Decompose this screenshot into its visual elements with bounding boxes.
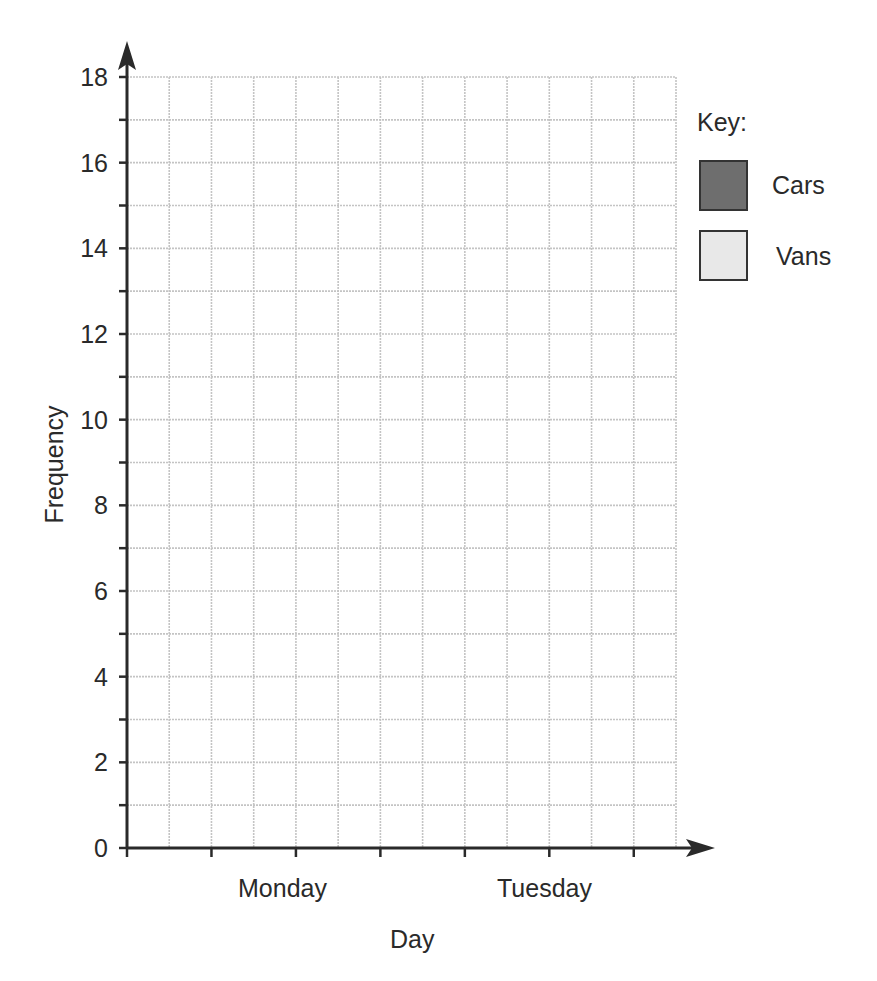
y-tick-label: 2 [48,748,108,777]
y-tick-label: 0 [48,834,108,863]
y-tick-label: 18 [48,63,108,92]
legend-label-cars: Cars [772,171,825,200]
x-axis-title: Day [390,925,434,954]
y-axis-title: Frequency [40,405,69,525]
grid-lines [127,77,676,848]
x-category-label-monday: Monday [238,874,327,903]
legend-label-vans: Vans [776,242,831,271]
legend-swatch-cars [699,160,748,211]
x-category-label-tuesday: Tuesday [497,874,592,903]
y-tick-label: 12 [48,320,108,349]
y-tick-label: 16 [48,149,108,178]
y-tick-label: 14 [48,234,108,263]
axis-ticks [119,77,634,857]
y-tick-label: 4 [48,663,108,692]
y-tick-label: 6 [48,577,108,606]
legend-swatch-vans [699,230,748,281]
chart-plot-area [0,0,877,981]
legend-title: Key: [697,108,747,137]
